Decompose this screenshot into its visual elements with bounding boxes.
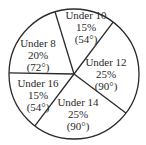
pie-chart: Under 820%(72°)Under 1615%(54°)Under 142…: [0, 0, 146, 145]
